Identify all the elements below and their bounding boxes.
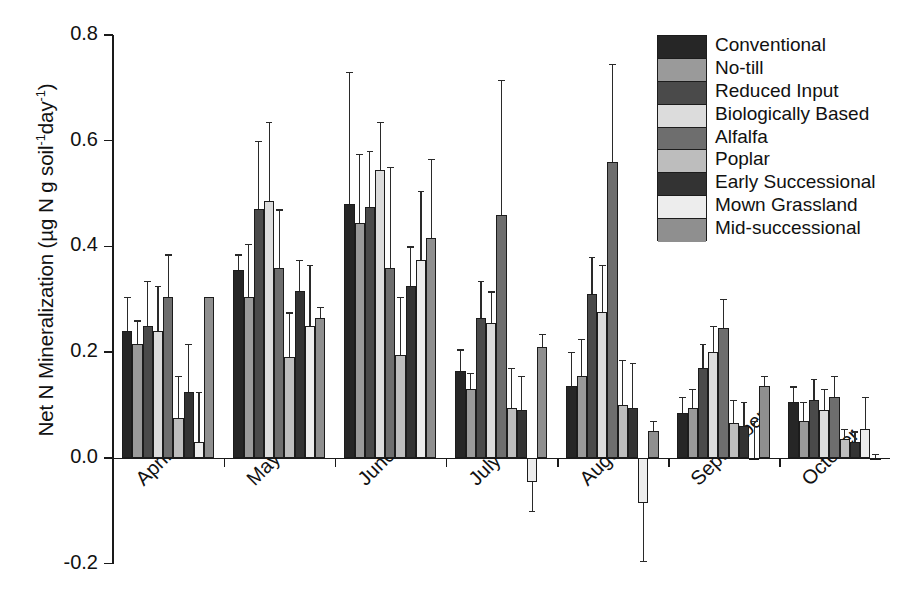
error-bar-cap — [175, 376, 182, 377]
error-bar-cap — [761, 376, 768, 377]
legend-swatch — [658, 82, 706, 105]
legend-swatch — [658, 105, 706, 128]
error-bar-cap — [467, 373, 474, 374]
error-bar-line — [359, 154, 360, 223]
error-bar-line — [400, 297, 401, 355]
error-bar-line — [480, 281, 481, 318]
error-bar-line — [410, 246, 411, 286]
error-bar-line — [723, 299, 724, 328]
error-bar-line — [178, 376, 179, 418]
error-bar-line — [865, 397, 866, 429]
bar — [455, 371, 465, 458]
error-bar-line — [369, 151, 370, 206]
error-bar-cap — [640, 561, 647, 562]
bar — [587, 294, 597, 458]
error-bar-cap — [568, 352, 575, 353]
error-bar-cap — [872, 454, 879, 455]
legend-swatch — [658, 59, 706, 82]
error-bar-cap — [841, 429, 848, 430]
error-bar-cap — [124, 297, 131, 298]
error-bar-cap — [428, 159, 435, 160]
bar — [254, 209, 264, 457]
error-bar-line — [470, 373, 471, 389]
error-bar-cap — [852, 431, 859, 432]
legend-swatch — [658, 196, 706, 219]
legend-label: Early Successional — [715, 171, 876, 194]
error-bar-line — [289, 312, 290, 357]
error-bar-line — [793, 386, 794, 402]
error-bar-line — [431, 159, 432, 238]
error-bar-cap — [578, 339, 585, 340]
legend-label: Alfalfa — [715, 126, 768, 149]
bar — [274, 268, 284, 458]
error-bar-line — [491, 291, 492, 323]
error-bar-line — [854, 431, 855, 442]
bar — [677, 413, 687, 458]
error-bar-line — [571, 352, 572, 386]
bar — [638, 458, 648, 503]
bar — [517, 410, 527, 458]
bar — [355, 223, 365, 458]
error-bar-cap — [589, 257, 596, 258]
error-bar-line — [460, 349, 461, 370]
bar — [840, 439, 850, 457]
error-bar-cap — [609, 64, 616, 65]
error-bar-cap — [679, 397, 686, 398]
error-bar-cap — [741, 402, 748, 403]
error-bar-line — [380, 122, 381, 170]
legend-label: Biologically Based — [715, 103, 869, 126]
bar — [173, 418, 183, 458]
error-bar-line — [602, 265, 603, 313]
error-bar-line — [521, 376, 522, 410]
error-bar-cap — [478, 281, 485, 282]
error-bar-cap — [307, 265, 314, 266]
bar — [739, 426, 749, 458]
legend-swatch — [658, 150, 706, 173]
error-bar-cap — [539, 334, 546, 335]
bar — [708, 352, 718, 458]
bar — [184, 392, 194, 458]
error-bar-line — [692, 389, 693, 407]
legend-label: No-till — [715, 57, 764, 80]
error-bar-cap — [650, 421, 657, 422]
error-bar-cap — [255, 141, 262, 142]
bar — [597, 312, 607, 457]
error-bar-cap — [387, 167, 394, 168]
error-bar-line — [702, 344, 703, 368]
error-bar-line — [532, 482, 533, 511]
error-bar-line — [137, 320, 138, 344]
error-bar-cap — [831, 376, 838, 377]
error-bar-line — [743, 402, 744, 426]
error-bar-line — [238, 254, 239, 270]
error-bar-cap — [397, 297, 404, 298]
bar — [426, 238, 436, 457]
error-bar-cap — [751, 421, 758, 422]
bar — [850, 442, 860, 458]
error-bar-line — [157, 286, 158, 331]
error-bar-line — [612, 64, 613, 162]
bar — [698, 368, 708, 458]
bar — [718, 328, 728, 457]
bar — [648, 431, 658, 457]
legend-swatch — [658, 128, 706, 151]
bar — [566, 386, 576, 457]
error-bar-cap — [155, 286, 162, 287]
bar — [486, 323, 496, 458]
error-bar-cap — [286, 312, 293, 313]
error-bar-cap — [630, 363, 637, 364]
error-bar-cap — [508, 368, 515, 369]
error-bar-line — [813, 379, 814, 400]
bar — [607, 162, 617, 458]
bar — [537, 347, 547, 458]
error-bar-line — [713, 326, 714, 352]
error-bar-line — [824, 389, 825, 410]
error-bar-line — [803, 402, 804, 420]
error-bar-line — [279, 209, 280, 267]
bar — [799, 421, 809, 458]
error-bar-line — [653, 421, 654, 432]
error-bar-cap — [700, 344, 707, 345]
bar — [305, 326, 315, 458]
bar — [233, 270, 243, 458]
bar — [416, 260, 426, 458]
error-bar-cap — [418, 191, 425, 192]
